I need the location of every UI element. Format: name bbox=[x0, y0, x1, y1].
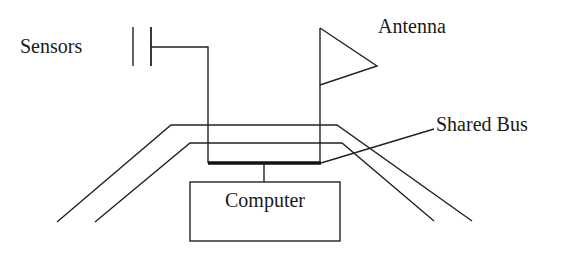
sensors-label: Sensors bbox=[20, 35, 82, 57]
shared-bus-label: Shared Bus bbox=[436, 113, 528, 135]
antenna-label: Antenna bbox=[378, 15, 446, 37]
shared-bus-callout-line bbox=[321, 129, 434, 163]
shared-bus-diagram: Sensors Antenna Shared Bus Computer bbox=[0, 0, 574, 254]
computer-label: Computer bbox=[225, 189, 305, 212]
